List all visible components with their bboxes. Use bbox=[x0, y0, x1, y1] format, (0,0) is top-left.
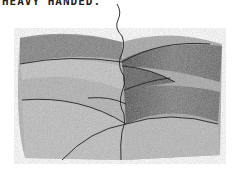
pencil-sketch-illustration bbox=[0, 0, 234, 169]
